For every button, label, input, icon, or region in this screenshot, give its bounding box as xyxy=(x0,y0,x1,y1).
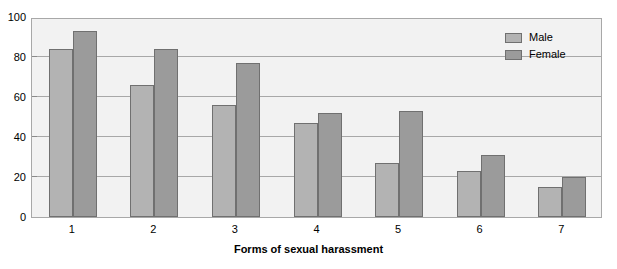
chart-legend: Male Female xyxy=(505,30,595,64)
bar-female-3 xyxy=(236,63,260,217)
bar-chart: 020406080100 1234567 Forms of sexual har… xyxy=(0,0,617,269)
y-tick-label: 80 xyxy=(0,52,26,63)
x-axis-title: Forms of sexual harassment xyxy=(0,243,617,255)
bar-female-4 xyxy=(318,113,342,217)
y-tick-mark xyxy=(32,136,37,137)
gridline xyxy=(32,96,601,97)
bar-male-6 xyxy=(457,171,481,217)
bar-female-2 xyxy=(154,49,178,217)
legend-swatch-female-icon xyxy=(505,50,522,60)
x-tick-label: 1 xyxy=(52,224,92,235)
x-tick-label: 5 xyxy=(378,224,418,235)
bar-female-6 xyxy=(481,155,505,217)
legend-label-female: Female xyxy=(529,49,566,60)
y-tick-label: 0 xyxy=(0,212,26,223)
y-tick-mark xyxy=(32,56,37,57)
y-tick-label: 100 xyxy=(0,12,26,23)
x-tick-label: 4 xyxy=(297,224,337,235)
legend-item-male: Male xyxy=(505,30,595,45)
y-tick-label: 60 xyxy=(0,92,26,103)
bar-male-1 xyxy=(49,49,73,217)
y-tick-mark xyxy=(32,176,37,177)
x-tick-label: 6 xyxy=(460,224,500,235)
legend-swatch-male-icon xyxy=(505,33,522,43)
x-tick-label: 3 xyxy=(215,224,255,235)
bar-female-5 xyxy=(399,111,423,217)
bar-male-4 xyxy=(294,123,318,217)
bar-male-5 xyxy=(375,163,399,217)
legend-item-female: Female xyxy=(505,47,595,62)
legend-label-male: Male xyxy=(529,32,553,43)
x-tick-label: 7 xyxy=(541,224,581,235)
y-tick-mark xyxy=(32,96,37,97)
bar-male-3 xyxy=(212,105,236,217)
bar-female-7 xyxy=(562,177,586,217)
x-tick-label: 2 xyxy=(133,224,173,235)
y-tick-label: 40 xyxy=(0,132,26,143)
bar-male-2 xyxy=(130,85,154,217)
bar-female-1 xyxy=(73,31,97,217)
bar-male-7 xyxy=(538,187,562,217)
y-tick-label: 20 xyxy=(0,172,26,183)
